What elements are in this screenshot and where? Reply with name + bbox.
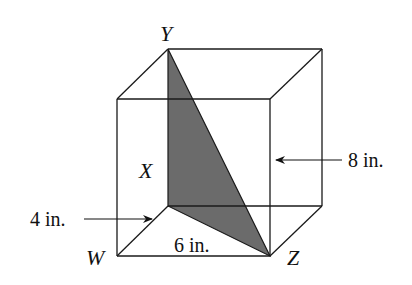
vertex-label-w: W [86,245,106,270]
shaded-triangle [168,49,270,256]
edge-top-left-depth [117,49,168,99]
edge-bottom-left-depth [117,206,168,256]
prism-figure: Y X W Z 8 in. 4 in. 6 in. [0,0,412,285]
edge-top-right-depth [270,49,322,99]
dimension-label-width: 6 in. [174,234,210,256]
dimension-label-depth: 4 in. [30,208,66,230]
prism-diagram: Y X W Z 8 in. 4 in. 6 in. [0,0,412,285]
vertex-label-y: Y [160,21,175,46]
vertex-label-x: X [138,158,154,183]
vertex-label-z: Z [287,245,300,270]
dimension-label-height: 8 in. [348,149,384,171]
